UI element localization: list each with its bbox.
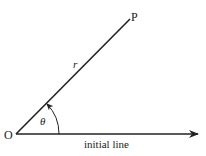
angle-theta-label: θ <box>40 116 45 127</box>
radius-label: r <box>73 59 77 70</box>
radius-line-op <box>16 19 130 134</box>
diagram-graphics <box>0 0 206 156</box>
angle-arc-icon <box>47 104 59 134</box>
initial-line-label: initial line <box>84 139 129 150</box>
point-p-label: P <box>131 11 138 23</box>
origin-label: O <box>4 129 13 141</box>
polar-diagram: O P r θ initial line <box>0 0 206 156</box>
